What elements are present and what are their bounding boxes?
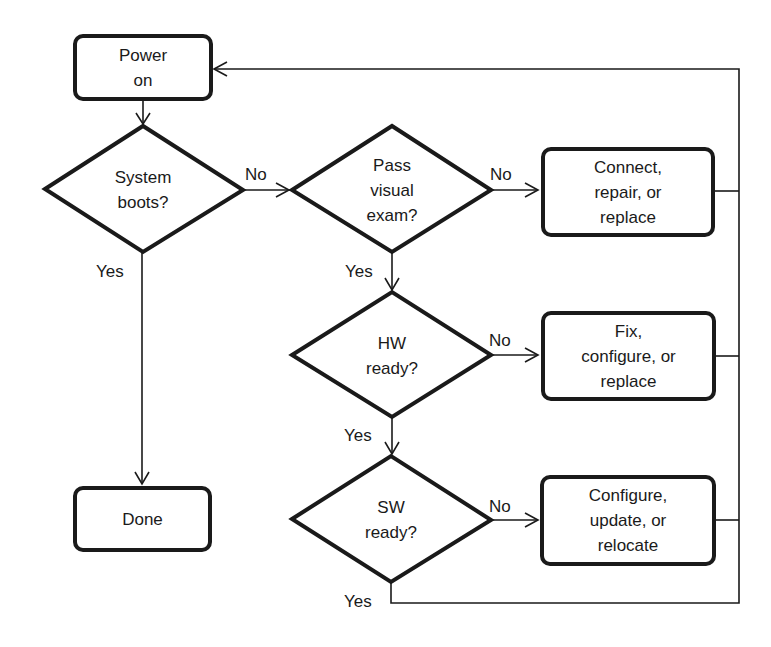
node-label: System boots? xyxy=(115,165,172,215)
node-label: Power on xyxy=(119,43,167,93)
edge-label-boots-no: No xyxy=(245,165,267,185)
node-label: Fix, configure, or replace xyxy=(581,319,676,394)
node-label: SW ready? xyxy=(365,495,417,545)
edge-label-hw-no: No xyxy=(489,331,511,351)
node-label: HW ready? xyxy=(366,331,418,381)
node-connect-repair-replace: Connect, repair, or replace xyxy=(541,147,715,237)
node-system-boots: System boots? xyxy=(83,164,203,216)
edge-label-visual-yes: Yes xyxy=(345,262,373,282)
node-label: Configure, update, or relocate xyxy=(589,483,667,558)
node-power-on: Power on xyxy=(73,34,213,101)
edge-label-visual-no: No xyxy=(490,165,512,185)
edge-label-hw-yes: Yes xyxy=(344,426,372,446)
node-configure-update-relocate: Configure, update, or relocate xyxy=(540,475,716,566)
node-sw-ready: SW ready? xyxy=(331,494,451,546)
node-done: Done xyxy=(73,486,212,552)
node-pass-visual-exam: Pass visual exam? xyxy=(332,152,452,228)
edge-label-sw-no: No xyxy=(489,497,511,517)
node-hw-ready: HW ready? xyxy=(332,330,452,382)
node-label: Connect, repair, or replace xyxy=(594,155,662,230)
edge-label-sw-yes: Yes xyxy=(344,592,372,612)
edge-label-boots-yes: Yes xyxy=(96,262,124,282)
node-label: Pass visual exam? xyxy=(366,153,417,228)
node-fix-configure-replace: Fix, configure, or replace xyxy=(541,311,716,401)
node-label: Done xyxy=(122,507,163,532)
